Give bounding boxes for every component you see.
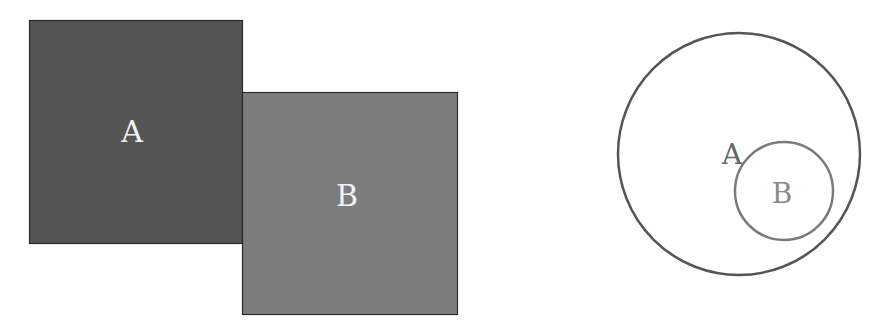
outer-circle-label: A (721, 138, 743, 171)
square-b-label: B (336, 178, 358, 213)
square-a-label: A (120, 114, 143, 149)
diagram-canvas: A B A B (0, 0, 884, 324)
squares-figure: A B (30, 21, 458, 315)
circles-figure: A B (618, 33, 860, 275)
inner-circle-label: B (772, 177, 793, 210)
